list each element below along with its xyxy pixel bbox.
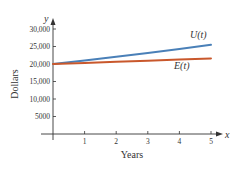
y-tick-label: 5000 xyxy=(35,112,50,121)
y-tick-label: 30,000 xyxy=(29,25,50,34)
x-tick-label: 1 xyxy=(83,137,87,146)
x-axis-label: Years xyxy=(121,149,143,160)
series-label-e: E(t) xyxy=(173,60,190,72)
x-tick-label: 2 xyxy=(114,137,118,146)
y-tick-label: 15,000 xyxy=(29,77,50,86)
x-tick-label: 5 xyxy=(209,137,213,146)
y-tick-label: 25,000 xyxy=(29,42,50,51)
y-ticks: 500010,00015,00020,00025,00030,000 xyxy=(29,25,56,122)
x-ticks: 12345 xyxy=(83,131,213,146)
y-tick-label: 10,000 xyxy=(29,95,50,104)
chart: 12345 500010,00015,00020,00025,00030,000… xyxy=(0,0,238,169)
y-axis-arrow-icon xyxy=(51,18,56,25)
y-tick-label: 20,000 xyxy=(29,60,50,69)
y-axis-variable: y xyxy=(43,13,49,24)
x-tick-label: 3 xyxy=(146,137,150,146)
y-axis-label: Dollars xyxy=(9,69,20,99)
x-axis-arrow-icon xyxy=(216,132,223,137)
series-label-u: U(t) xyxy=(190,29,207,41)
x-tick-label: 4 xyxy=(178,137,182,146)
x-axis-variable: x xyxy=(224,129,230,140)
